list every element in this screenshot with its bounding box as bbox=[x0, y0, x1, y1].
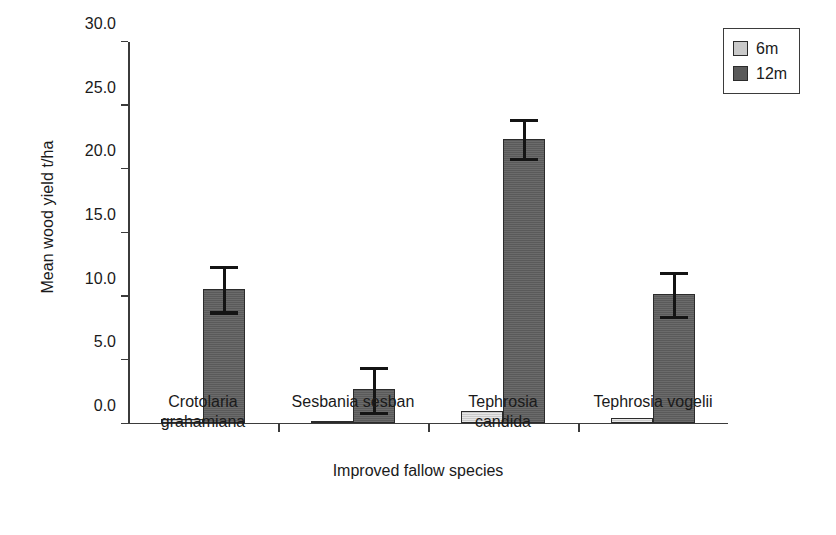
bar-chart-figure: Mean wood yield t/ha 0.05.010.015.020.02… bbox=[0, 0, 836, 535]
y-tick bbox=[121, 423, 128, 425]
legend-label-12m: 12m bbox=[756, 65, 787, 83]
bar-12m bbox=[503, 139, 545, 423]
y-tick bbox=[121, 232, 128, 234]
bar-6m bbox=[611, 418, 653, 422]
error-bar-cap-upper bbox=[510, 119, 538, 123]
y-tick-label: 5.0 bbox=[46, 333, 116, 351]
error-bar-cap-lower bbox=[360, 412, 388, 416]
error-bar-stem bbox=[223, 267, 226, 313]
error-bar-cap-upper bbox=[210, 266, 238, 270]
x-axis-title: Improved fallow species bbox=[0, 462, 836, 480]
legend-swatch-12m bbox=[733, 66, 748, 81]
y-tick bbox=[121, 359, 128, 361]
y-tick-label: 10.0 bbox=[46, 270, 116, 288]
x-category-label: Tephrosiacandida bbox=[428, 392, 578, 432]
legend-swatch-6m bbox=[733, 41, 748, 56]
plot-area: 0.05.010.015.020.025.030.0 bbox=[128, 42, 728, 424]
y-tick-label: 20.0 bbox=[46, 142, 116, 160]
y-tick-label: 0.0 bbox=[46, 397, 116, 415]
error-bar-stem bbox=[673, 273, 676, 318]
y-tick bbox=[121, 168, 128, 170]
legend: 6m12m bbox=[723, 28, 800, 94]
legend-item-12m: 12m bbox=[733, 61, 787, 86]
y-tick bbox=[121, 104, 128, 106]
error-bar-cap-lower bbox=[210, 311, 238, 315]
x-category-label-line: Crotolaria bbox=[128, 392, 278, 412]
x-category-label-line: candida bbox=[428, 412, 578, 432]
legend-label-6m: 6m bbox=[756, 40, 778, 58]
x-category-label-line: grahamiana bbox=[128, 412, 278, 432]
bar-6m bbox=[311, 421, 353, 423]
x-category-label-line: Sesbania sesban bbox=[278, 392, 428, 412]
x-category-label-line: Tephrosia vogelii bbox=[578, 392, 728, 412]
x-tick bbox=[278, 424, 280, 432]
x-category-label: Crotolariagrahamiana bbox=[128, 392, 278, 432]
error-bar-cap-upper bbox=[360, 367, 388, 371]
y-tick-label: 15.0 bbox=[46, 206, 116, 224]
error-bar-stem bbox=[523, 120, 526, 159]
x-category-label: Sesbania sesban bbox=[278, 392, 428, 412]
legend-item-6m: 6m bbox=[733, 36, 787, 61]
y-tick-label: 25.0 bbox=[46, 79, 116, 97]
error-bar-cap-upper bbox=[660, 272, 688, 276]
y-axis-line bbox=[128, 42, 130, 424]
error-bar-cap-lower bbox=[510, 158, 538, 162]
x-category-label: Tephrosia vogelii bbox=[578, 392, 728, 412]
y-tick bbox=[121, 295, 128, 297]
y-tick-label: 30.0 bbox=[46, 15, 116, 33]
y-tick bbox=[121, 41, 128, 43]
x-tick bbox=[578, 424, 580, 432]
error-bar-cap-lower bbox=[660, 316, 688, 320]
x-category-label-line: Tephrosia bbox=[428, 392, 578, 412]
